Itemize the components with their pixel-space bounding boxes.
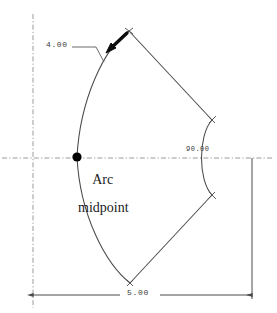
angle-dimension-label: 90.00 (186, 146, 210, 153)
radius-dimension-label: 4.00 (46, 41, 68, 49)
upper-right-edge (129, 31, 212, 120)
selection-arrow-marker (106, 33, 127, 53)
cad-vector-layer (0, 0, 277, 313)
arc-midpoint-label-line1: Arc (92, 172, 113, 187)
length-dimension-label: 5.00 (127, 289, 149, 297)
left-convex-arc (77, 31, 130, 283)
angle-arc-upper-tail (212, 116, 216, 120)
arc-midpoint-label: Arc midpoint (79, 158, 129, 245)
length-dimension (33, 158, 252, 299)
angle-arc-lower-tail (212, 195, 216, 199)
centerlines (2, 14, 272, 308)
bottom-vertex-tick (127, 280, 133, 286)
arc-midpoint-label-line2: midpoint (78, 201, 129, 216)
profile-outline (77, 31, 212, 283)
cad-drawing-canvas: 4.00 90.00 Arc midpoint 5.00 (0, 0, 277, 313)
radius-leader-line (72, 47, 104, 62)
lower-right-edge (130, 195, 212, 283)
radius-leader (72, 47, 104, 62)
